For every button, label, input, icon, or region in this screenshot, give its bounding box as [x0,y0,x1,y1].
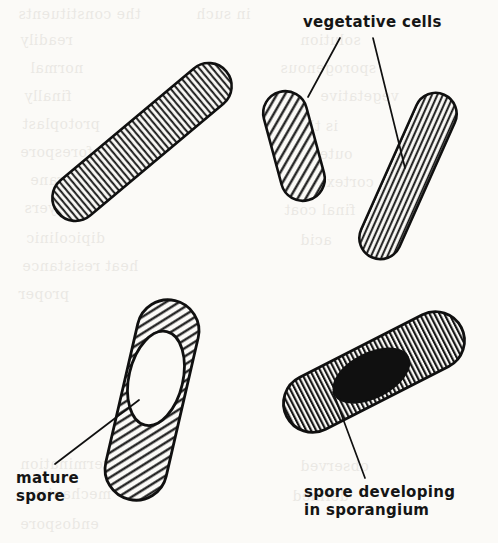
label-spore-developing-in-sporangium: spore developingin sporangium [304,484,455,519]
label-sporangium-line2: in sporangium [304,501,429,519]
label-mature-spore-line2: spore [16,487,65,505]
cell-large-vegetative-rod [43,54,241,231]
leader-veg-left-icon [308,38,340,97]
spore-formation-diagram [0,0,498,543]
leader-veg-right-icon [373,38,405,168]
label-vegetative-cells: vegetative cells [303,14,442,32]
cell-body [353,86,464,266]
cell-body [43,54,241,231]
label-mature-spore-line1: mature [16,469,79,487]
cell-body [258,86,329,206]
cell-tilted-vegetative-rod [353,86,464,266]
label-mature-spore: maturespore [16,470,79,505]
label-sporangium-line1: spore developing [304,483,455,501]
cell-mature-spore [99,294,205,507]
cell-sporangium [274,302,475,443]
cell-small-vegetative [258,86,329,206]
figure-page: the constituentsin suchreadilysolutionno… [0,0,498,543]
